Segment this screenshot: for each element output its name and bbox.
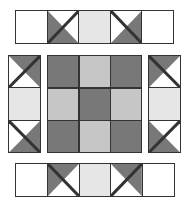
half-square-triangle xyxy=(9,56,40,87)
light-square xyxy=(80,56,110,87)
half-square-triangle xyxy=(9,120,40,152)
dark-square xyxy=(48,121,78,152)
white-square xyxy=(142,164,174,196)
half-square-triangle xyxy=(149,120,180,152)
half-square-triangle xyxy=(47,11,79,43)
half-square-triangle xyxy=(47,164,79,196)
light-square xyxy=(80,121,110,152)
dark-square xyxy=(80,89,110,120)
dark-square xyxy=(48,56,78,87)
dark-square xyxy=(111,121,141,152)
pale-square xyxy=(78,11,110,43)
white-square xyxy=(16,164,47,196)
half-square-triangle xyxy=(110,11,142,43)
white-square xyxy=(141,11,173,43)
dark-square xyxy=(111,56,141,87)
half-square-triangle xyxy=(110,164,142,196)
pale-square xyxy=(9,87,40,119)
white-square xyxy=(16,11,47,43)
right-strip xyxy=(148,55,181,153)
light-square xyxy=(48,89,78,120)
center-grid xyxy=(47,55,142,153)
left-strip xyxy=(8,55,41,153)
pale-square xyxy=(79,164,111,196)
bottom-strip xyxy=(15,163,175,197)
top-strip xyxy=(15,10,174,44)
half-square-triangle xyxy=(149,56,180,87)
light-square xyxy=(111,89,141,120)
pale-square xyxy=(149,87,180,119)
